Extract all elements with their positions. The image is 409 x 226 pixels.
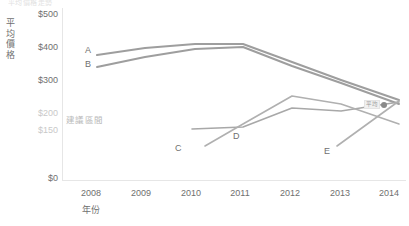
series-label-d: D — [233, 131, 240, 141]
series-line-b — [97, 47, 399, 104]
average-callout: 平均 — [364, 100, 387, 109]
series-label-a: A — [85, 45, 91, 55]
series-label-e: E — [324, 146, 330, 156]
series-label-b: B — [85, 59, 91, 69]
series-label-c: C — [175, 143, 182, 153]
chart-container: 平均價格走勢 平均價格 $500 $400 $300 $200 $150 $0 … — [0, 0, 409, 226]
series-line-a — [97, 44, 399, 100]
average-callout-label: 平均 — [364, 100, 380, 109]
plot-area — [0, 0, 409, 226]
average-callout-dot — [381, 102, 387, 108]
